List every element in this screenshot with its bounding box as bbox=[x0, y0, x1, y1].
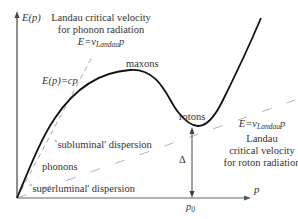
roton-annotation-line1: Landau bbox=[222, 133, 298, 145]
x-tick-p0: p0 bbox=[186, 201, 195, 216]
roton-annotation-line3: for roton radiation bbox=[222, 157, 298, 169]
gap-label: Δ bbox=[179, 154, 186, 166]
rotons-label: rotons bbox=[179, 111, 205, 123]
roton-annotation-formula: E=vLandaup bbox=[222, 118, 298, 133]
maxons-label: maxons bbox=[126, 58, 159, 70]
linear-dispersion-label: E(p)=cp bbox=[42, 75, 78, 87]
x-axis-arrow-icon bbox=[244, 196, 251, 201]
subluminal-label: `subluminal' dispersion bbox=[54, 139, 152, 151]
gap-arrow-up-icon bbox=[190, 127, 195, 134]
roton-landau-annotation: E=vLandaup Landau critical velocity for … bbox=[222, 118, 298, 169]
x-axis-label: p bbox=[254, 183, 260, 195]
phonon-annotation-line1: Landau critical velocity bbox=[42, 12, 160, 24]
phonons-label: phonons bbox=[42, 161, 78, 173]
superluminal-label: `superluminal' dispersion bbox=[29, 183, 135, 195]
roton-annotation-line2: critical velocity bbox=[222, 145, 298, 157]
y-axis-label: E(p) bbox=[22, 12, 41, 24]
phonon-annotation-line2: for phonon radiation bbox=[42, 24, 160, 36]
phonon-annotation-formula: E=vLandaup bbox=[42, 36, 160, 51]
phonon-landau-annotation: Landau critical velocity for phonon radi… bbox=[42, 12, 160, 51]
y-axis-arrow-icon bbox=[15, 11, 20, 18]
gap-arrow-down-icon bbox=[190, 191, 195, 198]
